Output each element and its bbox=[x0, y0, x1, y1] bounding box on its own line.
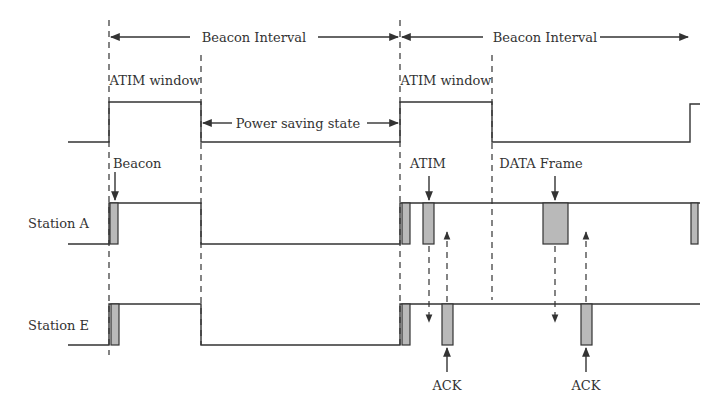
station-a-data-frame bbox=[543, 203, 568, 244]
beacon-interval-label-2: Beacon Interval bbox=[493, 30, 598, 45]
ack-label-1: ACK bbox=[431, 378, 461, 393]
station-a-beacon-frame-1 bbox=[110, 203, 118, 244]
atim-window-label-1: ATIM window bbox=[109, 73, 201, 88]
station-e-waveform bbox=[68, 304, 700, 345]
station-e-ack-frame-2 bbox=[581, 304, 592, 345]
atim-window-label-2: ATIM window bbox=[400, 73, 492, 88]
station-e-beacon-frame-1 bbox=[111, 304, 119, 345]
atim-window-waveform bbox=[68, 102, 700, 142]
beacon-interval-2: Beacon Interval bbox=[402, 30, 688, 45]
power-saving-state-label: Power saving state bbox=[236, 116, 361, 131]
beacon-interval-label-1: Beacon Interval bbox=[202, 30, 307, 45]
station-e-label: Station E bbox=[28, 318, 89, 333]
station-a-beacon-frame-2 bbox=[402, 203, 410, 244]
power-saving-state-span: Power saving state bbox=[203, 116, 398, 131]
station-e-beacon-frame-2 bbox=[402, 304, 410, 345]
power-saving-timing-diagram: Beacon Interval Beacon Interval ATIM win… bbox=[0, 0, 728, 414]
station-a-next-beacon-frame bbox=[691, 203, 698, 244]
data-frame-label: DATA Frame bbox=[499, 156, 583, 171]
atim-label: ATIM bbox=[409, 156, 446, 171]
ack-label-2: ACK bbox=[570, 378, 600, 393]
station-e-ack-frame-1 bbox=[442, 304, 453, 345]
station-a-label: Station A bbox=[28, 216, 90, 231]
beacon-label: Beacon bbox=[113, 156, 162, 171]
station-a-atim-frame bbox=[423, 203, 434, 244]
boundary-dashed-lines bbox=[109, 20, 492, 355]
station-a-waveform bbox=[68, 203, 700, 244]
beacon-interval-1: Beacon Interval bbox=[111, 30, 398, 45]
